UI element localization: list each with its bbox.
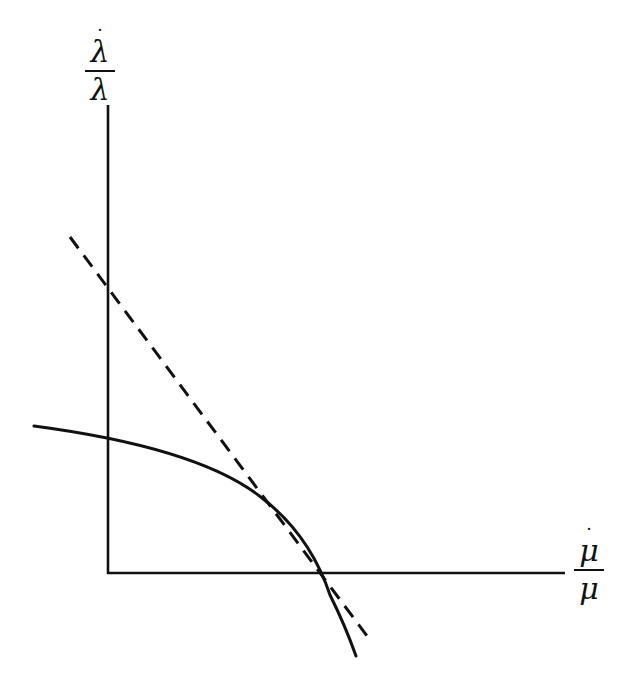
frontier-curve: [34, 426, 356, 656]
x-axis-label: ˙ μ μ: [574, 535, 604, 605]
x-label-denominator: μ: [579, 573, 599, 605]
y-label-denominator: λ: [90, 74, 109, 106]
x-label-numerator: ˙ μ: [579, 535, 599, 567]
y-label-numerator: ˙ λ: [90, 36, 109, 68]
x-label-dot: ˙: [584, 529, 594, 543]
y-label-dot: ˙: [95, 30, 105, 44]
y-axis-label: ˙ λ λ: [85, 36, 115, 106]
